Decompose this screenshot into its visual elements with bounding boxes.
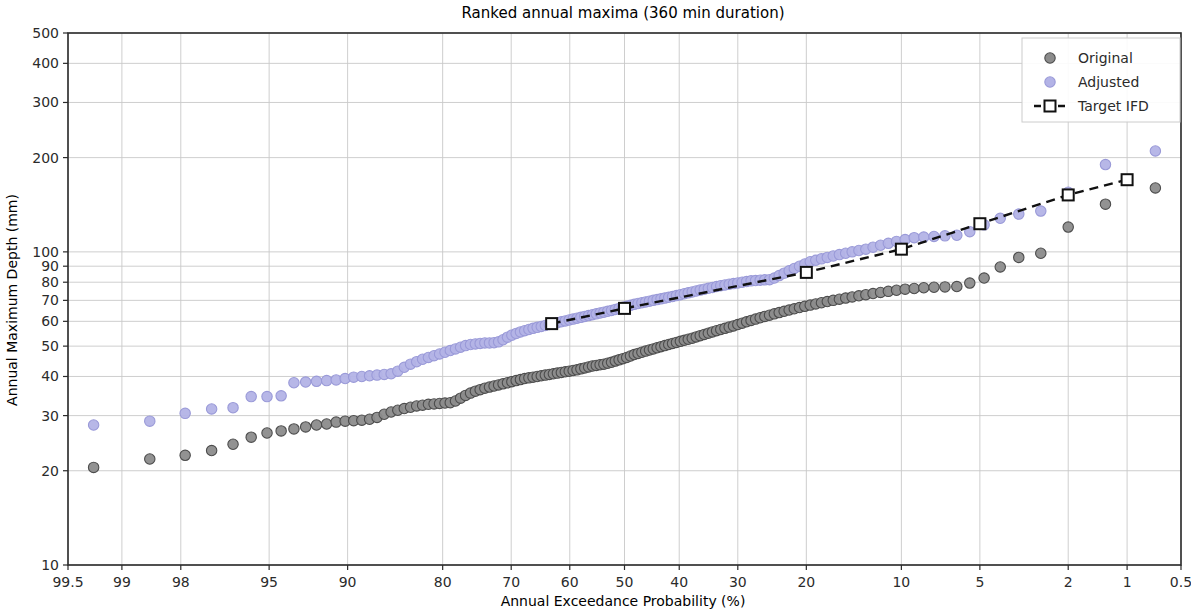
data-point — [206, 404, 216, 414]
y-tick-label: 60 — [41, 313, 59, 329]
data-point — [952, 281, 962, 291]
x-tick-label: 20 — [797, 574, 815, 590]
y-tick-label: 10 — [41, 557, 59, 573]
x-tick-label: 5 — [975, 574, 984, 590]
data-point — [88, 420, 98, 430]
y-tick-label: 30 — [41, 408, 59, 424]
data-point — [145, 416, 155, 426]
y-tick-label: 20 — [41, 463, 59, 479]
x-tick-label: 80 — [434, 574, 452, 590]
y-tick-label: 100 — [32, 244, 59, 260]
y-tick-label: 40 — [41, 368, 59, 384]
legend-marker-original — [1045, 53, 1055, 63]
legend-label-original[interactable]: Original — [1078, 50, 1133, 66]
data-point — [228, 402, 238, 412]
x-tick-label: 30 — [729, 574, 747, 590]
target-ifd-marker — [801, 267, 812, 278]
data-point — [228, 439, 238, 449]
data-point — [321, 419, 331, 429]
x-tick-label: 99.5 — [52, 574, 83, 590]
data-point — [1100, 159, 1110, 169]
data-point — [1150, 183, 1160, 193]
data-point — [909, 283, 919, 293]
data-point — [289, 424, 299, 434]
data-point — [276, 426, 286, 436]
y-tick-label: 80 — [41, 274, 59, 290]
target-ifd-marker — [896, 244, 907, 255]
x-tick-label: 10 — [892, 574, 910, 590]
data-point — [289, 378, 299, 388]
data-point — [246, 432, 256, 442]
data-point — [1036, 206, 1046, 216]
x-tick-label: 2 — [1064, 574, 1073, 590]
x-tick-label: 50 — [616, 574, 634, 590]
x-tick-label: 40 — [670, 574, 688, 590]
data-point — [180, 408, 190, 418]
legend-marker-adjusted — [1045, 77, 1055, 87]
target-ifd-marker — [619, 303, 630, 314]
data-point — [1100, 199, 1110, 209]
ranked-annual-maxima-chart: 99.59998959080706050403020105210.5 10203… — [0, 0, 1191, 611]
x-tick-label: 90 — [339, 574, 357, 590]
data-point — [321, 375, 331, 385]
x-tick-label: 0.5 — [1170, 574, 1191, 590]
data-point — [300, 422, 310, 432]
x-tick-label: 1 — [1123, 574, 1132, 590]
data-point — [940, 231, 950, 241]
x-tick-label: 95 — [260, 574, 278, 590]
x-tick-label: 60 — [561, 574, 579, 590]
data-point — [919, 283, 929, 293]
data-point — [929, 282, 939, 292]
data-point — [1063, 222, 1073, 232]
x-tick-label: 99 — [113, 574, 131, 590]
data-point — [940, 282, 950, 292]
data-point — [206, 445, 216, 455]
target-ifd-marker — [974, 218, 985, 229]
data-point — [300, 377, 310, 387]
x-tick-label: 70 — [502, 574, 520, 590]
legend-marker-target-ifd — [1045, 101, 1056, 112]
data-point — [262, 391, 272, 401]
chart-title: Ranked annual maxima (360 min duration) — [462, 4, 785, 22]
target-ifd-marker — [1063, 189, 1074, 200]
data-point — [965, 278, 975, 288]
chart-figure: 99.59998959080706050403020105210.5 10203… — [0, 0, 1191, 611]
x-tick-label: 98 — [172, 574, 190, 590]
legend-label-target-ifd[interactable]: Target IFD — [1077, 98, 1149, 114]
data-point — [311, 420, 321, 430]
data-point — [311, 376, 321, 386]
legend-label-adjusted[interactable]: Adjusted — [1078, 74, 1139, 90]
data-point — [909, 232, 919, 242]
data-point — [1014, 252, 1024, 262]
y-tick-label: 300 — [32, 94, 59, 110]
y-tick-label: 50 — [41, 338, 59, 354]
data-point — [88, 462, 98, 472]
data-point — [995, 262, 1005, 272]
y-tick-label: 400 — [32, 55, 59, 71]
data-point — [246, 391, 256, 401]
y-tick-label: 70 — [41, 292, 59, 308]
y-tick-label: 500 — [32, 25, 59, 41]
y-tick-label: 200 — [32, 150, 59, 166]
y-axis-label: Annual Maximum Depth (mm) — [4, 194, 20, 406]
data-point — [1036, 248, 1046, 258]
chart-background — [0, 0, 1191, 611]
data-point — [1150, 146, 1160, 156]
data-point — [979, 273, 989, 283]
chart-legend[interactable]: OriginalAdjustedTarget IFD — [1022, 38, 1180, 122]
target-ifd-marker — [1122, 174, 1133, 185]
x-axis-label: Annual Exceedance Probability (%) — [501, 593, 746, 609]
data-point — [262, 428, 272, 438]
data-point — [180, 450, 190, 460]
target-ifd-marker — [546, 318, 557, 329]
data-point — [145, 454, 155, 464]
data-point — [276, 391, 286, 401]
y-tick-label: 90 — [41, 258, 59, 274]
